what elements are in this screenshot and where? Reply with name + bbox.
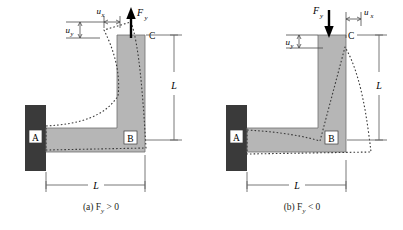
- force-label-a: F: [136, 7, 144, 18]
- panel-a-drawing: F y u x: [0, 0, 202, 206]
- panel-a-caption: (a) Fy > 0: [0, 202, 202, 215]
- force-arrow-b: [324, 10, 333, 38]
- force-sublabel-b: y: [319, 12, 324, 20]
- svg-text:A: A: [233, 133, 240, 143]
- node-c-a: C: [149, 31, 155, 41]
- vertical-length-label-b: L: [375, 80, 382, 91]
- node-a-a: A: [29, 130, 42, 143]
- svg-text:B: B: [328, 134, 334, 144]
- force-label-b: F: [312, 5, 320, 16]
- uy-sublabel-a: y: [70, 30, 74, 37]
- panel-a: F y u x: [0, 0, 202, 230]
- ux-sublabel-b: x: [370, 12, 374, 19]
- ux-label-b: u: [364, 7, 369, 17]
- panel-b-caption-rel: < 0: [306, 202, 321, 212]
- force-sublabel-a: y: [144, 14, 149, 22]
- figure-root: F y u x: [0, 0, 403, 230]
- node-a-b: A: [230, 130, 243, 143]
- svg-text:A: A: [32, 133, 39, 143]
- panel-b-caption: (b) Fy < 0: [201, 202, 403, 215]
- panel-b-drawing: F y u x: [201, 0, 403, 206]
- panel-b: F y u x: [201, 0, 403, 230]
- node-b-b: B: [325, 131, 338, 144]
- horizontal-length-label-b: L: [293, 180, 300, 191]
- panel-a-caption-text: (a) F: [83, 202, 101, 212]
- panel-b-caption-text: (b) F: [284, 202, 303, 212]
- vertical-length-label-a: L: [170, 80, 177, 91]
- node-b-a: B: [124, 131, 137, 144]
- svg-text:B: B: [127, 134, 133, 144]
- node-c-b: C: [348, 31, 354, 41]
- panel-a-caption-rel: > 0: [104, 202, 119, 212]
- uy-sublabel-b: y: [290, 42, 294, 49]
- horizontal-length-label-a: L: [92, 180, 99, 191]
- ux-sublabel-a: x: [101, 11, 105, 18]
